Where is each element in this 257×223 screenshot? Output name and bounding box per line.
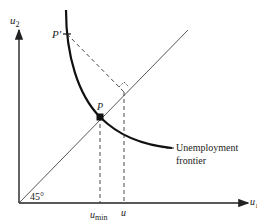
point-p-marker xyxy=(97,114,104,121)
y-axis-label: u2 xyxy=(10,14,20,29)
unemployment-frontier-diagram: u2 u1 P′ P 45° umin u Unemployment front… xyxy=(0,0,257,223)
curve-label-line2: frontier xyxy=(176,155,207,166)
u-tick-label: u xyxy=(121,207,126,218)
unemployment-frontier-curve xyxy=(66,10,172,148)
x-axis-label: u1 xyxy=(250,196,257,210)
u-min-tick-label: umin xyxy=(90,209,107,222)
angle-label: 45° xyxy=(30,191,44,202)
right-angle-marker xyxy=(119,82,129,87)
point-p-label: P xyxy=(96,101,103,112)
curve-label-line1: Unemployment xyxy=(176,142,238,153)
projection-dashed-line xyxy=(67,34,124,92)
point-p-prime-label: P′ xyxy=(51,28,62,40)
